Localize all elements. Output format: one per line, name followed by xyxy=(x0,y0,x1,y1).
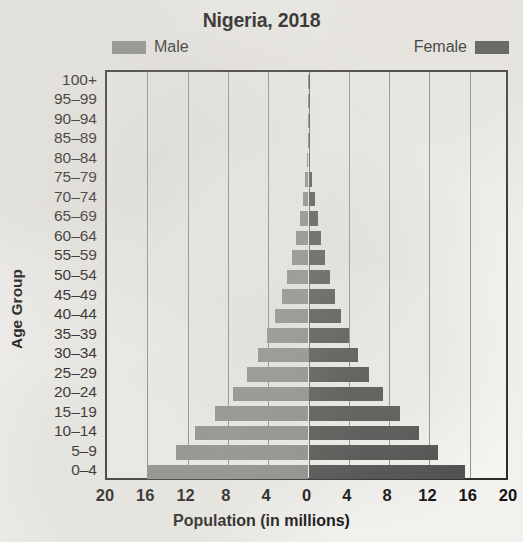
y-axis-tick-labels: 100+95–9990–9485–8980–8475–7970–7465–696… xyxy=(0,70,101,480)
bar-male-25–29 xyxy=(247,367,308,381)
legend-swatch-male xyxy=(112,41,146,54)
bar-row xyxy=(107,133,506,147)
x-axis-tick-labels: 20161284048121620 xyxy=(105,486,508,508)
y-axis-label-85–89: 85–89 xyxy=(54,130,97,146)
bar-female-85–89 xyxy=(309,133,310,147)
y-axis-label-25–29: 25–29 xyxy=(54,365,97,381)
x-axis-label-7: 8 xyxy=(383,486,392,505)
bar-male-10–14 xyxy=(195,426,309,440)
bar-row xyxy=(107,153,506,167)
bar-row xyxy=(107,406,506,420)
bar-female-95–99 xyxy=(309,94,310,108)
bar-female-45–49 xyxy=(309,289,335,303)
y-axis-label-0–4: 0–4 xyxy=(71,462,97,478)
bar-female-90–94 xyxy=(309,114,310,128)
y-axis-label-60–64: 60–64 xyxy=(54,228,97,244)
bar-female-100+ xyxy=(309,75,310,89)
y-axis-label-55–59: 55–59 xyxy=(54,247,97,263)
bar-female-15–19 xyxy=(309,406,401,420)
bar-row xyxy=(107,270,506,284)
y-axis-label-15–19: 15–19 xyxy=(54,404,97,420)
bar-male-45–49 xyxy=(282,289,308,303)
y-axis-label-30–34: 30–34 xyxy=(54,345,97,361)
bar-female-70–74 xyxy=(309,192,315,206)
bar-male-65–69 xyxy=(300,211,309,225)
y-axis-label-90–94: 90–94 xyxy=(54,111,97,127)
plot-area xyxy=(105,70,508,480)
bar-male-5–9 xyxy=(176,445,309,459)
bar-female-20–24 xyxy=(309,387,384,401)
legend-item-female: Female xyxy=(414,38,509,56)
bar-female-55–59 xyxy=(309,250,325,264)
y-axis-label-5–9: 5–9 xyxy=(71,443,97,459)
x-axis-label-1: 16 xyxy=(136,486,154,505)
bar-female-25–29 xyxy=(309,367,369,381)
bar-female-10–14 xyxy=(309,426,420,440)
y-axis-label-75–79: 75–79 xyxy=(54,169,97,185)
y-axis-label-65–69: 65–69 xyxy=(54,208,97,224)
x-axis-label-5: 0 xyxy=(302,486,311,505)
bar-male-0–4 xyxy=(147,465,308,479)
y-axis-label-70–74: 70–74 xyxy=(54,189,97,205)
bar-male-40–44 xyxy=(275,309,308,323)
legend-label-male: Male xyxy=(154,38,189,56)
bar-row xyxy=(107,289,506,303)
bar-row xyxy=(107,250,506,264)
y-axis-label-95–99: 95–99 xyxy=(54,91,97,107)
x-axis-label-10: 20 xyxy=(499,486,517,505)
bar-male-20–24 xyxy=(233,387,309,401)
x-axis-title: Population (in millions) xyxy=(0,512,523,530)
x-axis-label-9: 16 xyxy=(459,486,477,505)
y-axis-label-35–39: 35–39 xyxy=(54,326,97,342)
bar-row xyxy=(107,172,506,186)
bar-female-75–79 xyxy=(309,172,313,186)
y-axis-label-20–24: 20–24 xyxy=(54,384,97,400)
legend-swatch-female xyxy=(475,41,509,54)
y-axis-label-40–44: 40–44 xyxy=(54,306,97,322)
bar-female-30–34 xyxy=(309,348,358,362)
bar-male-35–39 xyxy=(267,328,308,342)
bar-row xyxy=(107,426,506,440)
bar-female-60–64 xyxy=(309,231,321,245)
bar-row xyxy=(107,211,506,225)
bar-row xyxy=(107,309,506,323)
bar-female-35–39 xyxy=(309,328,349,342)
chart-title: Nigeria, 2018 xyxy=(0,9,523,32)
bar-male-50–54 xyxy=(287,270,308,284)
y-axis-label-10–14: 10–14 xyxy=(54,423,97,439)
bar-row xyxy=(107,114,506,128)
legend-label-female: Female xyxy=(414,38,467,56)
bar-male-60–64 xyxy=(296,231,308,245)
legend-item-male: Male xyxy=(112,38,189,56)
bar-female-40–44 xyxy=(309,309,341,323)
bar-row xyxy=(107,348,506,362)
x-axis-label-6: 4 xyxy=(342,486,351,505)
x-axis-label-0: 20 xyxy=(96,486,114,505)
bar-row xyxy=(107,367,506,381)
x-axis-label-8: 12 xyxy=(418,486,436,505)
x-axis-label-3: 8 xyxy=(221,486,230,505)
x-axis-label-2: 12 xyxy=(176,486,194,505)
x-axis-label-4: 4 xyxy=(262,486,271,505)
y-axis-label-80–84: 80–84 xyxy=(54,150,97,166)
bar-row xyxy=(107,192,506,206)
y-axis-label-100+: 100+ xyxy=(62,72,97,88)
bar-female-5–9 xyxy=(309,445,439,459)
bar-female-0–4 xyxy=(309,465,465,479)
bar-male-55–59 xyxy=(292,250,308,264)
bar-row xyxy=(107,465,506,479)
bar-male-30–34 xyxy=(258,348,308,362)
bar-row xyxy=(107,328,506,342)
bar-female-65–69 xyxy=(309,211,318,225)
bar-male-15–19 xyxy=(215,406,309,420)
y-axis-label-50–54: 50–54 xyxy=(54,267,97,283)
bar-female-50–54 xyxy=(309,270,330,284)
y-axis-label-45–49: 45–49 xyxy=(54,287,97,303)
population-pyramid-chart: Nigeria, 2018 Male Female Age Group 100+… xyxy=(0,0,523,542)
bar-rows xyxy=(107,72,506,478)
bar-row xyxy=(107,387,506,401)
bar-row xyxy=(107,231,506,245)
bar-row xyxy=(107,75,506,89)
bar-row xyxy=(107,445,506,459)
bar-row xyxy=(107,94,506,108)
